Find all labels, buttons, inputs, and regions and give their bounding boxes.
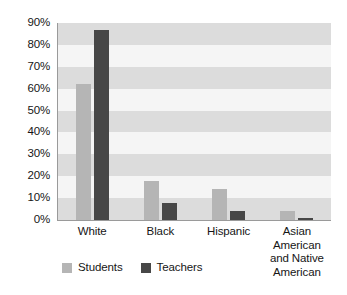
- y-axis: 90%80%70%60%50%40%30%20%10%0%: [0, 23, 54, 220]
- y-axis-tick-label: 40%: [28, 127, 50, 139]
- chart-legend: StudentsTeachers: [62, 262, 202, 274]
- y-axis-tick-label: 0%: [34, 214, 50, 226]
- x-axis-tick-label: White: [58, 225, 126, 239]
- y-axis-tick-label: 20%: [28, 170, 50, 182]
- y-axis-tick-label: 60%: [28, 83, 50, 95]
- bar-group: [195, 23, 263, 220]
- bar-students: [212, 189, 227, 220]
- bar-group: [58, 23, 126, 220]
- x-axis-tick-label-line: Hispanic: [196, 225, 262, 239]
- legend-swatch-icon: [141, 263, 151, 273]
- legend-item: Students: [62, 262, 123, 274]
- x-axis-tick-label-line: American: [264, 239, 330, 253]
- bar-students: [76, 84, 91, 220]
- x-axis-tick-label-line: American: [264, 266, 330, 280]
- legend-label: Teachers: [157, 262, 203, 274]
- x-axis-line: [57, 220, 331, 221]
- y-axis-tick-label: 70%: [28, 61, 50, 73]
- bar-teachers: [94, 30, 109, 220]
- bar-students: [280, 211, 295, 220]
- y-axis-tick-label: 10%: [28, 192, 50, 204]
- legend-label: Students: [78, 262, 123, 274]
- bar-teachers: [298, 218, 313, 220]
- bar-chart: 90%80%70%60%50%40%30%20%10%0% WhiteBlack…: [0, 0, 347, 295]
- bar-group: [263, 23, 331, 220]
- x-axis-tick-label: AsianAmericanand NativeAmerican: [263, 225, 331, 279]
- bar-teachers: [230, 211, 245, 220]
- bar-group: [126, 23, 194, 220]
- x-axis-tick-label-line: Black: [127, 225, 193, 239]
- y-axis-tick-label: 80%: [28, 39, 50, 51]
- y-axis-tick-label: 50%: [28, 105, 50, 117]
- bar-teachers: [162, 203, 177, 221]
- bar-students: [144, 181, 159, 220]
- legend-swatch-icon: [62, 263, 72, 273]
- y-axis-tick-label: 90%: [28, 17, 50, 29]
- bars-layer: [58, 23, 331, 220]
- x-axis-tick-label-line: White: [59, 225, 125, 239]
- x-axis-tick-label: Hispanic: [195, 225, 263, 239]
- legend-item: Teachers: [141, 262, 203, 274]
- x-axis-tick-label: Black: [126, 225, 194, 239]
- y-axis-tick-label: 30%: [28, 149, 50, 161]
- x-axis-tick-label-line: Asian: [264, 225, 330, 239]
- x-axis-tick-label-line: and Native: [264, 252, 330, 266]
